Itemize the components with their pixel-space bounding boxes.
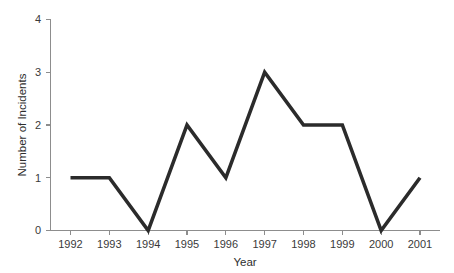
x-tick-label: 1997 — [252, 238, 276, 250]
y-tick-label: 0 — [35, 224, 41, 236]
x-tick-label: 1993 — [97, 238, 121, 250]
y-tick-label: 1 — [35, 172, 41, 184]
y-tick-label: 2 — [35, 119, 41, 131]
chart-background — [0, 0, 454, 273]
x-tick-label: 1996 — [214, 238, 238, 250]
chart-plot-area: 4 3 2 1 0 1992 1993 1994 1995 1996 199 — [0, 0, 454, 273]
x-tick-label: 1998 — [291, 238, 315, 250]
x-tick-label: 2001 — [408, 238, 432, 250]
y-tick-label: 4 — [35, 13, 41, 25]
x-tick-label: 1994 — [136, 238, 160, 250]
y-axis-title: Number of Incidents — [16, 73, 28, 176]
incidents-by-year-chart: 4 3 2 1 0 1992 1993 1994 1995 1996 199 — [0, 0, 454, 273]
x-tick-label: 2000 — [369, 238, 393, 250]
y-tick-label: 3 — [35, 66, 41, 78]
x-tick-label: 1995 — [175, 238, 199, 250]
x-tick-label: 1999 — [330, 238, 354, 250]
x-tick-label: 1992 — [58, 238, 82, 250]
x-axis-title: Year — [233, 256, 256, 268]
